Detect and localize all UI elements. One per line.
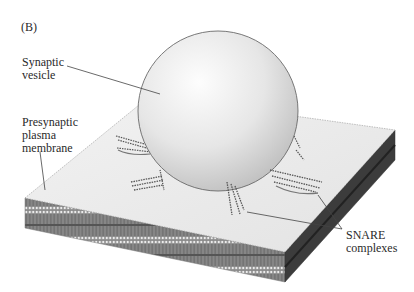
synaptic-vesicle [138,31,298,191]
label-synaptic-vesicle: Synaptic vesicle [22,56,64,82]
figure-panel-b: (B) Synaptic vesicle Presynaptic plasma … [0,0,414,292]
label-presynaptic-membrane: Presynaptic plasma membrane [22,116,78,155]
label-snare-complexes: SNARE complexes [346,229,397,255]
panel-label: (B) [21,21,37,34]
